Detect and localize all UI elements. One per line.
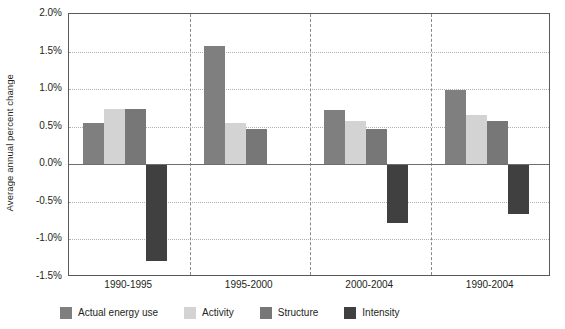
group-divider [431,14,432,275]
bar [204,46,225,164]
chart-legend: Actual energy useActivityStructureIntens… [60,304,426,322]
bar [508,164,529,214]
y-axis-tick-label: 1.0% [39,83,62,93]
bar [104,109,125,165]
x-axis-tick-label: 1990-2004 [430,279,551,291]
bar [125,109,146,165]
plot-area [68,13,550,276]
y-axis-tick-labels: 2.0%1.5%1.0%0.5%0.0%-0.5%-1.0%-1.5% [18,0,66,285]
bar [366,129,387,164]
bar [387,164,408,223]
x-axis-tick-label: 1990-1995 [68,279,189,291]
group-divider [310,14,311,275]
bar [324,110,345,164]
bar [146,164,167,261]
x-axis-tick-label: 1995-2000 [189,279,310,291]
y-axis-tick-label: 2.0% [39,8,62,18]
bar [246,129,267,164]
legend-item: Intensity [344,307,399,319]
gridline [69,239,549,240]
gridline [69,52,549,53]
bar [445,90,466,164]
legend-label: Actual energy use [78,307,158,319]
y-axis-tick-label: 0.0% [39,158,62,168]
bar [225,123,246,164]
legend-swatch-icon [344,307,356,319]
legend-swatch-icon [60,307,72,319]
y-axis-tick-label: 0.5% [39,121,62,131]
legend-swatch-icon [184,307,196,319]
bar [487,121,508,164]
legend-label: Intensity [362,307,399,319]
legend-item: Actual energy use [60,307,158,319]
y-axis-tick-label: -0.5% [36,196,62,206]
bar [345,121,366,164]
bar [466,115,487,164]
legend-label: Structure [278,307,319,319]
legend-swatch-icon [260,307,272,319]
legend-label: Activity [202,307,234,319]
y-axis-title: Average annual percent change [0,0,18,285]
y-axis-tick-label: -1.0% [36,233,62,243]
legend-item: Activity [184,307,234,319]
x-axis-tick-labels: 1990-19951995-20002000-20041990-2004 [68,279,550,297]
zero-line [69,164,549,165]
gridline [69,89,549,90]
y-axis-tick-label: -1.5% [36,271,62,281]
gridline [69,202,549,203]
bar-chart: Average annual percent change 2.0%1.5%1.… [0,0,565,329]
group-divider [190,14,191,275]
x-axis-tick-label: 2000-2004 [309,279,430,291]
bar [83,123,104,164]
legend-item: Structure [260,307,319,319]
y-axis-title-text: Average annual percent change [4,74,15,211]
y-axis-tick-label: 1.5% [39,46,62,56]
